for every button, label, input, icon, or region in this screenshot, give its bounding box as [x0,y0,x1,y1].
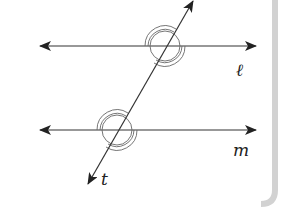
label-l: ℓ [236,60,243,80]
parallel-lines-diagram: ℓ m t [0,0,286,208]
label-m: m [233,140,249,160]
frame-edge [261,0,275,204]
label-t: t [101,169,108,189]
transversal-t [88,1,193,184]
